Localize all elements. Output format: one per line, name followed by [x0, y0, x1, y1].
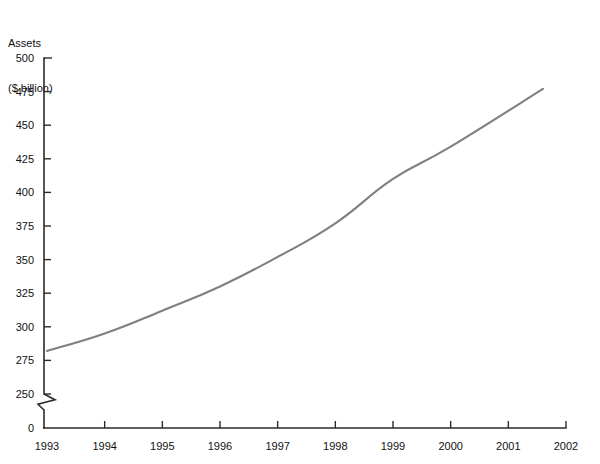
x-axis-tick-label: 1998: [323, 440, 347, 452]
y-axis-tick-label: 400: [16, 186, 34, 198]
y-axis-tick-label: 425: [16, 153, 34, 165]
x-axis-tick-labels: 1993199419951996199719981999200020012002: [35, 440, 578, 452]
y-axis-tick-label: 450: [16, 119, 34, 131]
x-axis-tick-label: 1996: [208, 440, 232, 452]
x-axis-tick-marks: [105, 421, 566, 428]
line-chart: Assets ($ billion) 500475450425400375350…: [0, 0, 600, 464]
x-axis-tick-label: 1993: [35, 440, 59, 452]
y-axis-tick-label: 325: [16, 287, 34, 299]
chart-canvas: 500475450425400375350325300275250 199319…: [0, 0, 600, 464]
axis-break-icon: [38, 394, 55, 410]
y-axis-tick-label: 300: [16, 321, 34, 333]
y-axis-tick-label: 350: [16, 254, 34, 266]
x-axis-tick-label: 2002: [554, 440, 578, 452]
x-axis-tick-label: 1999: [381, 440, 405, 452]
y-axis-tick-labels: 500475450425400375350325300275250: [16, 52, 34, 400]
y-axis-tick-label: 475: [16, 86, 34, 98]
assets-series-line: [47, 89, 543, 351]
x-axis-tick-label: 2000: [438, 440, 462, 452]
x-axis-tick-label: 1995: [150, 440, 174, 452]
y-axis-tick-label: 275: [16, 354, 34, 366]
y-axis-tick-label: 500: [16, 52, 34, 64]
y-axis-tick-label: 250: [16, 388, 34, 400]
y-axis-tick-marks: [44, 58, 52, 394]
y-axis-zero-label: 0: [28, 422, 34, 434]
x-axis-tick-label: 1997: [265, 440, 289, 452]
x-axis-tick-label: 2001: [496, 440, 520, 452]
x-axis-tick-label: 1994: [92, 440, 116, 452]
y-axis-tick-label: 375: [16, 220, 34, 232]
